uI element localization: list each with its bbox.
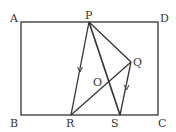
label-s: S: [111, 117, 119, 130]
label-b: B: [10, 117, 18, 130]
label-r: R: [66, 117, 75, 130]
label-o: O: [93, 76, 102, 89]
label-q: Q: [133, 56, 142, 69]
label-p: P: [85, 9, 93, 22]
label-d: D: [160, 12, 169, 25]
label-a: A: [9, 12, 19, 25]
geometry-diagram: A D P Q O B R S C: [0, 0, 176, 132]
label-c: C: [158, 117, 166, 130]
